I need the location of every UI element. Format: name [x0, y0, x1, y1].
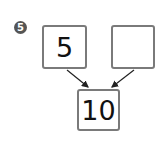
bottom-total-box: 10: [77, 89, 120, 131]
right-arrow-icon: [112, 70, 134, 87]
bottom-value: 10: [81, 95, 115, 126]
left-arrow-icon: [67, 70, 88, 87]
